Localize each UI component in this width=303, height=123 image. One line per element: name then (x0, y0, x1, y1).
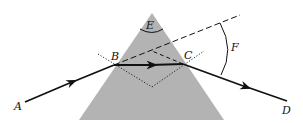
incident-ray (25, 82, 72, 102)
label-a: A (13, 100, 22, 113)
label-b: B (110, 50, 119, 63)
label-c: C (184, 49, 193, 62)
label-e: E (145, 19, 154, 32)
deviation-angle-arc (220, 23, 228, 75)
label-d: D (281, 104, 291, 117)
internal-ray-2 (150, 64, 183, 65)
prism-refraction-diagram: A B C D E F (0, 0, 303, 123)
label-f: F (230, 41, 239, 54)
emergent-ray-2 (244, 86, 287, 101)
